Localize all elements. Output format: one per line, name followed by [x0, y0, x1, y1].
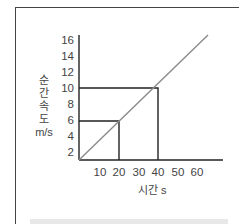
y-tick-8: 8 — [54, 98, 74, 110]
y-tick-12: 12 — [54, 66, 74, 78]
y-tick-10: 10 — [54, 82, 74, 94]
x-axis-label: 시간 s — [138, 181, 167, 197]
y-label-unit: m/s — [30, 126, 58, 139]
y-tick-6: 6 — [54, 114, 74, 126]
caption-bar — [30, 219, 228, 224]
y-label-char-4: 도 — [34, 113, 54, 126]
y-label-char-2: 간 — [34, 87, 54, 100]
y-label-char-1: 순 — [34, 74, 54, 87]
y-label-char-3: 속 — [34, 100, 54, 113]
x-tick-50: 50 — [168, 166, 188, 178]
y-tick-16: 16 — [54, 34, 74, 46]
y-tick-2: 2 — [54, 146, 74, 158]
x-tick-10: 10 — [90, 166, 110, 178]
x-tick-30: 30 — [129, 166, 149, 178]
x-tick-60: 60 — [187, 166, 207, 178]
y-tick-14: 14 — [54, 50, 74, 62]
x-tick-40: 40 — [148, 166, 168, 178]
x-tick-20: 20 — [109, 166, 129, 178]
velocity-line — [79, 35, 208, 160]
